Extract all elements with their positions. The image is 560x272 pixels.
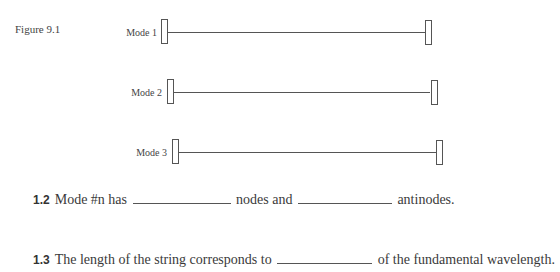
- answer-blank-nodes[interactable]: [133, 191, 231, 204]
- question-text: antinodes.: [397, 192, 454, 207]
- mode-2-right-peg: [431, 80, 438, 105]
- question-text: The length of the string corresponds to: [55, 252, 272, 267]
- question-text: of the fundamental wavelength.: [378, 252, 555, 267]
- answer-blank-antinodes[interactable]: [298, 191, 392, 204]
- mode-1-string: [168, 32, 425, 33]
- question-text: Mode #n has: [55, 192, 127, 207]
- mode-3-string: [179, 152, 436, 153]
- mode-2-label: Mode 2: [100, 87, 162, 98]
- question-number: 1.3: [33, 253, 50, 267]
- mode-3-right-peg: [436, 140, 443, 165]
- question-number: 1.2: [33, 193, 50, 207]
- question-1-3: 1.3The length of the string corresponds …: [33, 251, 555, 267]
- mode-3-left-peg: [172, 139, 179, 164]
- figure-label: Figure 9.1: [15, 23, 60, 35]
- question-1-2: 1.2Mode #n has nodes and antinodes.: [33, 191, 455, 207]
- mode-1-right-peg: [425, 20, 432, 45]
- answer-blank-wavelength[interactable]: [277, 251, 372, 264]
- mode-1-left-peg: [161, 19, 168, 44]
- mode-3-label: Mode 3: [105, 147, 167, 158]
- mode-1-label: Mode 1: [95, 27, 157, 38]
- question-text: nodes and: [236, 192, 292, 207]
- mode-2-left-peg: [167, 79, 174, 104]
- mode-2-string: [174, 92, 430, 93]
